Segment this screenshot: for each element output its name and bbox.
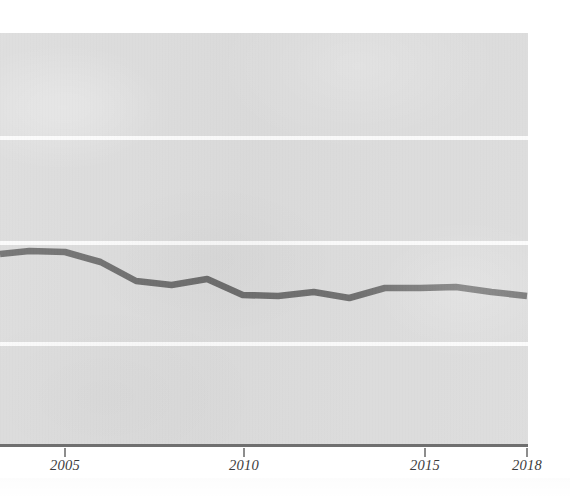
- plot-area: [0, 33, 528, 447]
- page-bottom-margin: [0, 447, 570, 500]
- x-tick-label-2015: 2015: [410, 457, 440, 474]
- series-line-chart: [0, 33, 528, 447]
- x-tick-mark-2015: [424, 448, 426, 457]
- series-1-line: [0, 251, 527, 298]
- x-tick-label-2010: 2010: [229, 457, 259, 474]
- chart-figure: 2005 2010 2015 2018: [0, 0, 570, 500]
- x-tick-label-2018: 2018: [512, 457, 542, 474]
- page-top-margin: [0, 0, 570, 33]
- x-tick-mark-2005: [64, 448, 66, 457]
- x-tick-mark-2010: [243, 448, 245, 457]
- page-right-margin: [528, 0, 570, 447]
- x-tick-mark-2018: [526, 448, 528, 457]
- x-tick-label-2005: 2005: [50, 457, 80, 474]
